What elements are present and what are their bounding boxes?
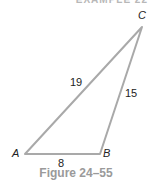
vertex-label-b: B xyxy=(103,147,110,159)
vertex-label-a: A xyxy=(12,147,19,159)
vertex-label-c: C xyxy=(138,9,146,21)
figure-caption: Figure 24–55 xyxy=(0,166,152,180)
side-label-ac: 19 xyxy=(70,76,82,88)
side-label-bc: 15 xyxy=(125,87,137,99)
